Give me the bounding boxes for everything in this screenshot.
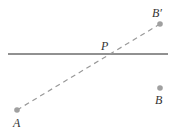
reflection-diagram: A B B′ P	[0, 0, 171, 132]
label-b-prime: B′	[152, 6, 162, 20]
label-a: A	[12, 116, 21, 130]
label-b: B	[155, 93, 163, 107]
point-a-dot	[14, 107, 20, 113]
point-b-dot	[157, 85, 163, 91]
dashed-path-a-to-b-prime	[17, 24, 160, 110]
label-p: P	[100, 39, 109, 53]
point-b-prime-dot	[157, 21, 163, 27]
